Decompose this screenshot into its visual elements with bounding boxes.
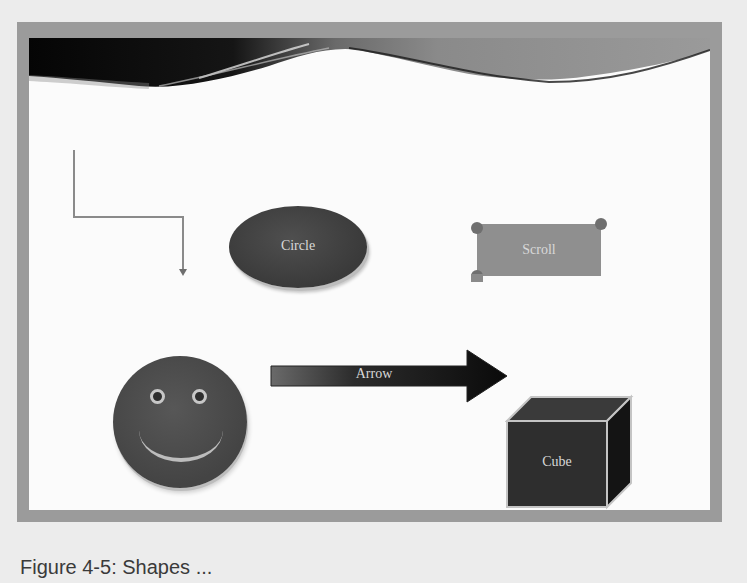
slide: Circle Scroll Arrow [29,38,710,510]
smile-icon [139,424,223,462]
cube-shape[interactable] [505,393,637,510]
scroll-label: Scroll [469,242,609,258]
slide-frame: Circle Scroll Arrow [17,22,722,522]
arrow-label: Arrow [319,366,429,382]
smiley-face-shape[interactable] [113,356,247,488]
left-eye-icon [150,389,165,404]
ellipse-label: Circle [229,238,367,254]
cube-label: Cube [507,454,607,470]
right-eye-icon [192,389,207,404]
ellipse-shape[interactable]: Circle [229,206,367,288]
figure-caption: Figure 4-5: Shapes ... [20,556,212,579]
